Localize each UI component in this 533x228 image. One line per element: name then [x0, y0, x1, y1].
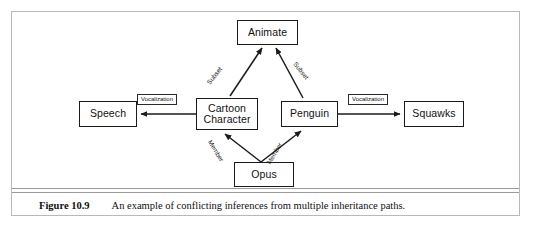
caption-divider-bottom: [12, 192, 519, 193]
edge-label-vocalization-right: Vocalization: [348, 94, 388, 105]
node-animate[interactable]: Animate: [237, 20, 298, 45]
node-squawks-label: Squawks: [412, 108, 455, 120]
node-penguin-label: Penguin: [290, 108, 329, 120]
node-speech[interactable]: Speech: [79, 101, 137, 127]
edge-cartoon-to-animate: [230, 48, 262, 96]
node-opus[interactable]: Opus: [234, 162, 294, 187]
node-cartoon-character-label: Cartoon Character: [203, 103, 250, 126]
node-speech-label: Speech: [90, 108, 126, 120]
figure-caption-text: An example of conflicting inferences fro…: [112, 200, 406, 211]
node-animate-label: Animate: [248, 27, 287, 39]
node-opus-label: Opus: [251, 169, 277, 181]
edge-opus-to-cartoon: [225, 134, 261, 162]
caption-divider-top: [12, 188, 519, 189]
node-cartoon-character[interactable]: Cartoon Character: [196, 98, 258, 130]
figure-caption: Figure 10.9 An example of conflicting in…: [12, 196, 519, 215]
node-penguin[interactable]: Penguin: [281, 101, 338, 127]
edge-label-vocalization-left: Vocalization: [137, 94, 177, 105]
diagram-canvas: Animate Speech Cartoon Character Penguin…: [12, 12, 519, 188]
figure-frame: Animate Speech Cartoon Character Penguin…: [11, 11, 520, 216]
node-squawks[interactable]: Squawks: [404, 101, 464, 127]
figure-caption-number: Figure 10.9: [39, 200, 90, 211]
